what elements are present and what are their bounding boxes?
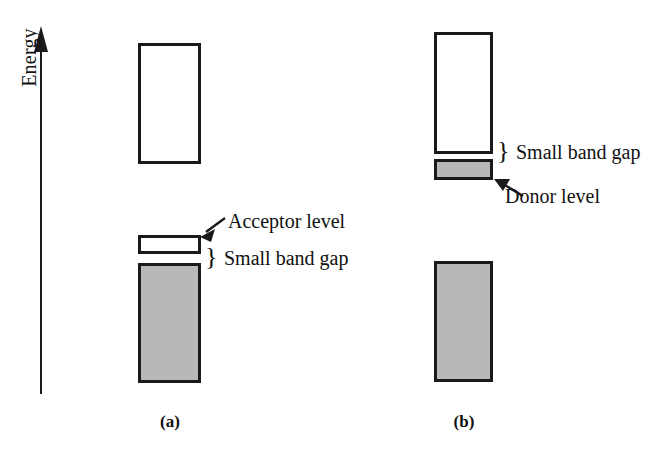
panel-a-acceptor-level-label: Acceptor level (228, 211, 345, 231)
panel-b-donor-level-label: Donor level (505, 186, 600, 206)
panel-a-acceptor-level (138, 235, 201, 254)
panel-a-conduction-band (138, 43, 201, 164)
panel-b-band-gap-brace: } (497, 138, 509, 164)
acceptor-level-arrow-icon (200, 218, 225, 242)
panel-b-caption: (b) (424, 412, 504, 432)
panel-a-band-gap-label: Small band gap (224, 248, 348, 268)
energy-axis-label: Energy (18, 3, 41, 113)
panel-b-conduction-band (434, 32, 493, 154)
panel-a-valence-band (138, 263, 201, 383)
panel-a-band-gap-brace: } (205, 244, 217, 270)
figure-canvas: Energy Acceptor level } Small band gap }… (0, 0, 666, 451)
panel-b-donor-level (434, 159, 493, 180)
panel-b-band-gap-label: Small band gap (516, 142, 640, 162)
panel-b-valence-band (434, 261, 493, 382)
panel-a-caption: (a) (130, 412, 210, 432)
